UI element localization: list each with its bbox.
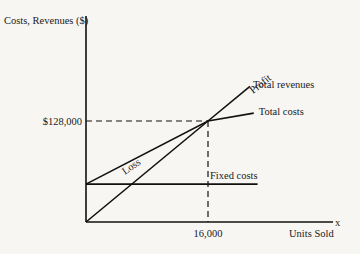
x-axis-label: Units Sold [289,228,334,239]
total-revenues-line [86,86,250,222]
total-costs-label: Total costs [259,106,304,117]
y-axis-label: Costs, Revenues ($) [4,15,89,27]
fixed-costs-label: Fixed costs [210,170,258,181]
x-axis-symbol: x [335,217,341,228]
y-tick-label: $128,000 [43,116,82,127]
break-even-chart: Costs, Revenues ($)xUnits Sold$128,00016… [0,0,360,254]
x-tick-label: 16,000 [194,228,223,239]
loss-annotation: Loss [120,156,143,176]
